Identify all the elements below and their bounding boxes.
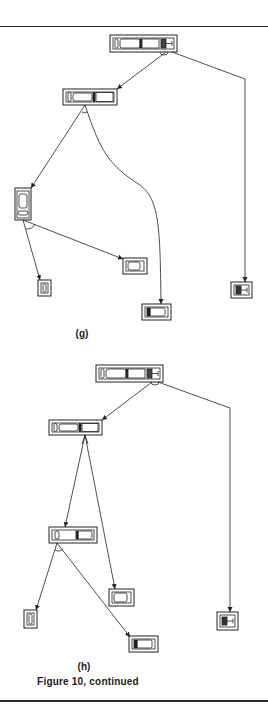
panel-g-leaf-2[interactable] [38, 280, 51, 296]
panel-h-label: (h) [0, 661, 218, 672]
and-arc-node-b [26, 224, 35, 229]
panel-g-node-b[interactable] [15, 188, 31, 220]
panel-g-edges [23, 52, 245, 304]
panel-h-node-b[interactable] [49, 527, 97, 543]
edge-node-b-to-leaf-1 [23, 220, 123, 259]
bottom-divider [0, 700, 268, 702]
panel-h-leaf-1[interactable] [109, 589, 134, 606]
edge-node-b-to-leaf-3 [57, 543, 130, 637]
panel-g-leaf-1[interactable] [123, 258, 147, 274]
edge-root-to-leaf-4 [158, 382, 230, 612]
edge-root-to-leaf-4 [172, 52, 245, 282]
edge-node-a-to-node-b [31, 105, 85, 188]
panel-g-leaf-3[interactable] [142, 304, 171, 320]
panel-h-root-node[interactable] [96, 365, 163, 382]
panel-g-node-a[interactable] [63, 89, 117, 105]
and-arc-node-a [82, 112, 87, 113]
edge-node-b-to-leaf-2 [23, 220, 40, 280]
edge-node-b-to-leaf-2 [36, 543, 57, 610]
edge-node-a-to-leaf-1 [85, 435, 115, 589]
panel-g [15, 35, 252, 320]
panel-h-leaf-2[interactable] [24, 610, 37, 628]
edge-root-to-node-a [102, 382, 152, 420]
figure-caption: Figure 10, continued [0, 676, 222, 687]
panel-h-leaf-3[interactable] [129, 636, 158, 652]
panel-g-root-node[interactable] [110, 35, 177, 52]
panel-g-label: (g) [0, 328, 216, 339]
edge-node-a-to-node-b [65, 435, 85, 527]
panel-h-leaf-4[interactable] [217, 612, 238, 630]
panel-g-leaf-4[interactable] [231, 282, 252, 298]
figure-diagram [0, 0, 268, 715]
panel-h-node-a[interactable] [49, 420, 102, 435]
panel-h [24, 365, 238, 652]
edge-root-to-node-a [117, 52, 166, 89]
